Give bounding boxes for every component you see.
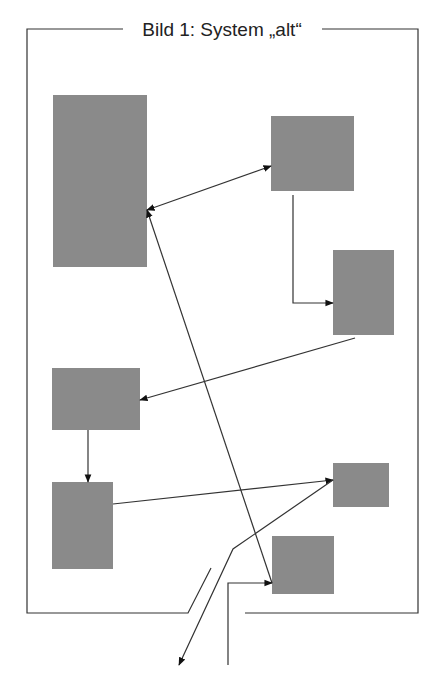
diagram-title: Bild 1: System „alt“ — [142, 19, 301, 40]
connection-box1-box2 — [147, 166, 271, 210]
connection-box2-box3 — [293, 195, 333, 303]
connection-box5-box6 — [113, 480, 333, 504]
box-6 — [333, 463, 389, 507]
box-4 — [52, 368, 140, 430]
connection-box7-box1 — [147, 210, 272, 583]
connection-box3-box4 — [140, 338, 355, 400]
connection-external-in-box7 — [228, 583, 272, 665]
box-7 — [272, 536, 334, 594]
system-diagram: Bild 1: System „alt“ — [0, 0, 446, 683]
box-5 — [52, 482, 113, 569]
box-1 — [53, 95, 147, 267]
box-3 — [333, 250, 394, 335]
boxes — [52, 95, 394, 594]
box-2 — [271, 116, 354, 191]
